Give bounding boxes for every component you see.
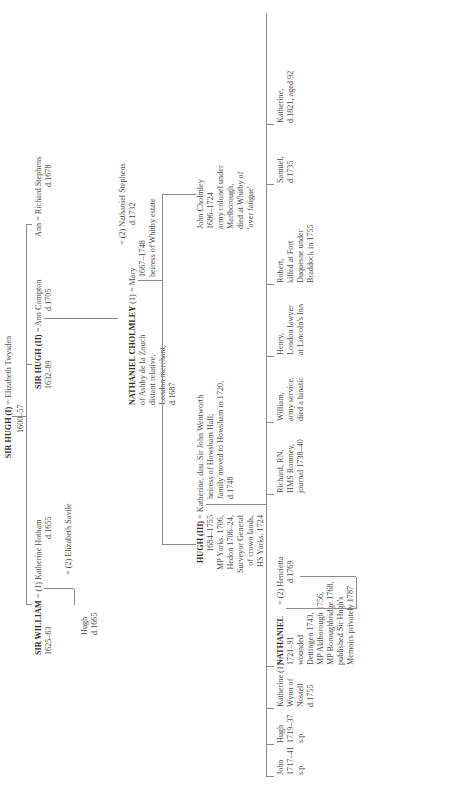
detail-line: 1721–91	[286, 581, 296, 665]
nathaniel-cholmley-details: of Ashby de la Zouch distant relative, L…	[138, 335, 178, 406]
gen4-drop	[266, 124, 274, 125]
detail-line: London merchant,	[158, 335, 168, 406]
detail-line: heiress of Howsham Hall;	[206, 381, 216, 499]
mary-name: (1) = Mary	[128, 268, 137, 304]
detail-line: 1684–1755	[206, 515, 216, 595]
ann-compton-death: d.1705	[44, 288, 54, 311]
detail-line: s.p.	[296, 714, 306, 743]
gen4-person-name: Katherine,	[276, 71, 286, 123]
gen4-person: Richard, RN,HMS Romney,journal 1738–40	[276, 439, 306, 493]
richard-stephens-death: d.1678	[44, 164, 54, 187]
detail-line: HMS Romney,	[286, 439, 296, 493]
katherine-hotham-death: d.1655	[44, 516, 54, 539]
gen2-sibling-line	[26, 225, 27, 605]
root-dates: 1600–57	[16, 404, 26, 433]
gen2-drop-william	[26, 604, 32, 605]
gen4-person-name: William,	[276, 377, 286, 421]
detail-line: MP Boroughbridge 1768,	[326, 581, 336, 665]
root-spouse: = Elizabeth Twysden	[4, 336, 13, 405]
gen4-drop	[266, 284, 274, 285]
gen4-person: Robert,killed at FortDuquesne underBradd…	[276, 224, 316, 283]
detail-line: army colonel under	[216, 165, 226, 229]
sir-william: SIR WILLIAM = (1) Katherine Hotham	[34, 519, 44, 655]
gen4-person-name: Henry,	[276, 304, 286, 355]
gen4-person-name: Samuel,	[276, 156, 286, 183]
mary-descent-line	[138, 280, 162, 281]
sir-hugh-ii-name: SIR HUGH (II)	[34, 334, 43, 389]
gen4-sibling-line	[266, 13, 267, 777]
detail-line: d.1748	[226, 381, 236, 499]
nathaniel-line-1	[286, 608, 356, 609]
sir-william-name: SIR WILLIAM	[34, 600, 43, 655]
detail-line: family moved to Howsham in 1720,	[216, 381, 226, 499]
detail-line: published Sir Hugh's	[336, 581, 346, 665]
detail-line: 'over fatigue'	[246, 165, 256, 229]
detail-line: 1686–1724	[206, 165, 216, 229]
gen3-sibling-line	[162, 195, 163, 545]
hugh-iii-details: 1684–1755 MP Yorks. 1706, Hedon 1706–24,…	[206, 515, 266, 595]
detail-line: of crown lands,	[246, 515, 256, 595]
hugh2-descent-line	[44, 318, 118, 319]
nathaniel-line-2	[300, 576, 356, 577]
detail-line: Memoirs privately 1787	[346, 581, 356, 665]
root-name: SIR HUGH (I)	[4, 407, 13, 458]
sir-william-dates: 1625–63	[44, 626, 54, 655]
detail-line: 1717–41	[286, 746, 296, 775]
gen4-drop	[266, 666, 274, 667]
detail-line: Marlborough,	[226, 165, 236, 229]
detail-line: died at Whitby of	[236, 165, 246, 229]
gen2-drop-hugh2	[26, 364, 32, 365]
root-descent-line	[12, 416, 26, 417]
hugh-iii-spouse-details: heiress of Howsham Hall; family moved to…	[206, 381, 236, 499]
detail-line: d.1821, aged 92	[286, 71, 296, 123]
hugh-son-link	[74, 589, 75, 605]
detail-line: died a lunatic	[296, 377, 306, 421]
detail-line: 1719–37	[286, 714, 296, 743]
hugh-iii: HUGH (III) = Katherine, dau. Sir John We…	[196, 395, 206, 563]
detail-line: HS Yorks. 1724	[256, 515, 266, 595]
gen4-drop	[266, 494, 274, 495]
ann-stephens: Ann = Richard Stephens	[34, 157, 44, 237]
john-cholmley-name: John Cholmley	[196, 165, 206, 229]
gen4-person-name: John	[276, 746, 286, 775]
gen4-drop	[266, 744, 274, 745]
hugh3-descent-line	[206, 504, 266, 505]
detail-line: Braddock in 1755	[306, 224, 316, 283]
gen4-person: Samuel,d.1735	[276, 156, 296, 183]
gen4-person: John1717–41s.p.	[276, 746, 306, 775]
ann-spouse: = Richard Stephens	[34, 157, 43, 221]
gen4-person: Henry,London lawyerat Lincoln's Inn	[276, 304, 306, 355]
detail-line: killed at Fort	[286, 224, 296, 283]
detail-line: heiress of Whitby estate	[148, 198, 158, 277]
detail-line: MP Yorks. 1706,	[216, 515, 226, 595]
detail-line: Duquesne under	[296, 224, 306, 283]
gen4-drop	[266, 356, 274, 357]
family-tree: SIR HUGH (I) = Elizabeth Twysden 1600–57…	[0, 0, 457, 785]
gen4-person: Hugh1719–37s.p.	[276, 714, 306, 743]
root-person: SIR HUGH (I) = Elizabeth Twysden	[4, 327, 14, 467]
gen2-drop-ann	[26, 224, 32, 225]
sir-william-spouse2: = (2) Elizabeth Savile	[64, 503, 74, 575]
detail-line: MP Aldborough 1756,	[316, 581, 326, 665]
mary-details: 1667–1748 heiress of Whitby estate	[138, 198, 158, 277]
gen4-drop	[266, 184, 274, 185]
sir-hugh-ii-spouse: = Ann Compton	[34, 280, 43, 333]
detail-line: at Lincoln's Inn	[296, 304, 306, 355]
gen4-drop	[266, 776, 274, 777]
hugh3-drop	[162, 544, 196, 545]
detail-line: d.1735	[286, 156, 296, 183]
detail-line: London lawyer	[286, 304, 296, 355]
hugh-iii-name: HUGH (III)	[196, 521, 205, 563]
detail-line: Hedon 1706–24,	[226, 515, 236, 595]
nathaniel-line-3	[356, 577, 357, 609]
detail-line: 1667–1748	[138, 198, 148, 277]
detail-line: distant relative,	[148, 335, 158, 406]
mary: NATHANIEL CHOLMLEY (1) = Mary	[128, 268, 138, 405]
nathaniel-spouse2: = (2) Henrietta	[276, 556, 286, 605]
detail-line: of Ashby de la Zouch	[138, 335, 148, 406]
detail-line: Dettingen 1743,	[306, 581, 316, 665]
henrietta-death: d.1769	[286, 560, 296, 583]
sir-hugh-ii: SIR HUGH (II) = Ann Compton	[34, 280, 44, 389]
nathaniel-cholmley-name: NATHANIEL CHOLMLEY	[128, 306, 137, 405]
gen4-person: NATHANIEL1721–91woundedDettingen 1743,MP…	[276, 581, 356, 665]
